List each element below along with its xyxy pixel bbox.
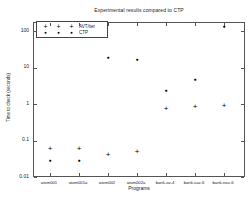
y-tick-mark	[34, 104, 37, 105]
data-point: +	[193, 103, 198, 111]
data-point: +	[48, 145, 53, 153]
x-tick-mark	[50, 173, 51, 176]
dot-marker-icon: ●	[39, 31, 52, 36]
y-tick-mark	[34, 177, 37, 178]
x-tick-mark	[108, 173, 109, 176]
data-point: ●	[48, 157, 51, 162]
dot-marker-icon: ●	[65, 31, 78, 36]
y-tick-label: 0.01	[0, 173, 29, 180]
legend-label: AVT/iter	[78, 24, 95, 29]
legend: +++AVT/iter●●●CTP	[36, 21, 108, 38]
y-tick-mark	[34, 68, 37, 69]
data-point: +	[77, 145, 82, 153]
chart-title: Experimental results compared to CTP	[33, 7, 245, 13]
data-point: ●	[135, 57, 138, 62]
y-tick-mark	[241, 177, 244, 178]
x-tick-mark	[166, 23, 167, 26]
legend-label: CTP	[78, 30, 88, 35]
data-point: ●	[106, 54, 109, 59]
x-tick-mark	[166, 173, 167, 176]
data-point: ●	[193, 76, 196, 81]
x-tick-mark	[195, 173, 196, 176]
y-tick-mark	[34, 31, 37, 32]
data-point: +	[135, 148, 140, 156]
y-tick-label: 0.1	[0, 136, 29, 143]
y-tick-mark	[34, 141, 37, 142]
data-point: ●	[222, 24, 225, 29]
data-point: ●	[164, 87, 167, 92]
x-tick-mark	[137, 173, 138, 176]
x-tick-mark	[79, 23, 80, 26]
x-tick-mark	[50, 23, 51, 26]
y-axis-label: Time to check (seconds)	[6, 45, 11, 150]
data-point: +	[222, 102, 227, 110]
plus-marker-icon: +	[52, 23, 65, 30]
data-point: ●	[77, 157, 80, 162]
x-tick-mark	[79, 173, 80, 176]
y-tick-mark	[241, 31, 244, 32]
x-axis-label: Programs	[33, 185, 245, 191]
dot-marker-icon: ●	[52, 31, 65, 36]
plot-area: +++AVT/iter●●●CTP +++++++●●●●●●●	[33, 22, 245, 177]
y-tick-label: 100	[0, 27, 29, 34]
x-tick-mark	[224, 173, 225, 176]
x-tick-label: bank-nav-6	[206, 180, 240, 185]
x-tick-mark	[195, 23, 196, 26]
chart-figure: Experimental results compared to CTP Tim…	[0, 0, 250, 204]
x-tick-mark	[137, 23, 138, 26]
y-tick-label: 10	[0, 63, 29, 70]
x-tick-mark	[108, 23, 109, 26]
y-tick-mark	[241, 68, 244, 69]
data-point: +	[164, 105, 169, 113]
data-point: +	[106, 151, 111, 159]
legend-entry: ●●●CTP	[39, 30, 107, 37]
y-tick-label: 1	[0, 100, 29, 107]
y-tick-mark	[241, 104, 244, 105]
y-tick-mark	[241, 141, 244, 142]
plus-marker-icon: +	[65, 23, 78, 30]
